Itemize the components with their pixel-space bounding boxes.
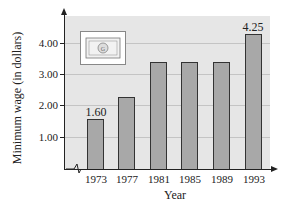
ytick-label: 4.00 xyxy=(24,38,58,49)
xtick-label: 1981 xyxy=(144,174,174,185)
bar-1985 xyxy=(181,62,198,169)
ytick-label: 2.00 xyxy=(24,100,58,111)
ytick-label: 3.00 xyxy=(24,69,58,80)
y-axis-arrow-icon xyxy=(61,8,67,15)
xtick-label: 1989 xyxy=(207,174,237,185)
y-axis-label: Minimum wage (in dollars) xyxy=(10,28,25,168)
axis-break-icon xyxy=(66,162,86,174)
x-axis-arrow-icon xyxy=(271,166,278,172)
dollar-bill-icon: G xyxy=(80,31,126,65)
ytick-2 xyxy=(60,105,65,106)
data-label-1973: 1.60 xyxy=(81,106,111,118)
gridline-3 xyxy=(65,74,270,75)
data-label-1993: 4.25 xyxy=(238,21,268,33)
x-axis-label: Year xyxy=(145,188,205,203)
xtick-label: 1993 xyxy=(239,174,269,185)
ytick-label: 1.00 xyxy=(24,132,58,143)
bar-1977 xyxy=(118,97,135,169)
xtick-label: 1973 xyxy=(81,174,111,185)
y-axis xyxy=(64,14,65,170)
bar-1989 xyxy=(213,62,230,169)
ytick-3 xyxy=(60,74,65,75)
xtick-label: 1985 xyxy=(175,174,205,185)
x-axis xyxy=(64,169,272,170)
bar-1981 xyxy=(150,62,167,169)
ytick-1 xyxy=(60,137,65,138)
svg-text:G: G xyxy=(101,46,106,52)
bar-1973 xyxy=(87,119,104,169)
bar-1993 xyxy=(245,34,262,169)
ytick-4 xyxy=(60,43,65,44)
xtick-label: 1977 xyxy=(112,174,142,185)
